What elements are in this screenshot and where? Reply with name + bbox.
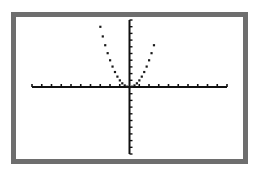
plot-point (119, 79, 121, 81)
plot-point (146, 65, 148, 67)
plot-point (116, 76, 118, 78)
plot-points (99, 26, 155, 88)
graph-plot (0, 0, 254, 170)
plot-point (102, 35, 104, 37)
plot-point (129, 86, 131, 88)
plot-point (107, 52, 109, 54)
plot-point (153, 44, 155, 46)
plot-point (111, 65, 113, 67)
plot-point (124, 84, 126, 86)
plot-point (126, 86, 128, 88)
plot-point (141, 76, 143, 78)
plot-point (131, 86, 133, 88)
plot-point (136, 82, 138, 84)
plot-point (114, 71, 116, 73)
plot-point (148, 59, 150, 61)
plot-point (121, 82, 123, 84)
plot-point (150, 52, 152, 54)
plot-point (99, 26, 101, 28)
plot-point (104, 44, 106, 46)
plot-point (109, 59, 111, 61)
plot-point (133, 84, 135, 86)
plot-point (143, 71, 145, 73)
plot-point (138, 79, 140, 81)
